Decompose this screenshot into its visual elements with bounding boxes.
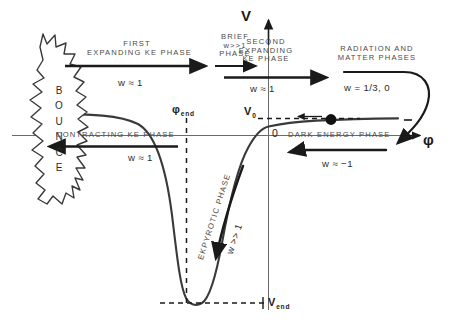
phi-end-subscript: end — [181, 110, 195, 117]
phi-end-symbol: φ — [172, 103, 181, 115]
phase-first-expanding-ke-caption: FIRST EXPANDING KE PHASE — [87, 40, 187, 57]
bounce-letter-o: O — [46, 98, 72, 113]
phase-dark-energy-caption: DARK ENERGY PHASE — [288, 131, 392, 140]
phase-second-expanding-ke-caption: SECOND EXPANDING KE PHASE — [232, 38, 300, 64]
bounce-letter-e: E — [46, 160, 72, 175]
caption-line: MATTER PHASES — [329, 54, 425, 63]
phase-contracting-ke-caption: CONTRACTING KE PHASE — [56, 131, 180, 140]
caption-line: CONTRACTING KE PHASE — [56, 131, 180, 140]
figure-canvas: B O U N C E FIRST EXPANDING KE PHASE w ≈… — [0, 0, 452, 323]
phase-second-expanding-ke-w: w ≈ 1 — [250, 84, 275, 95]
phi-axis-label: φ — [423, 132, 435, 149]
phase-first-expanding-ke-w: w ≈ 1 — [118, 78, 143, 89]
v-axis-label: V — [241, 8, 252, 25]
bounce-letter-c: C — [46, 145, 72, 160]
field-state-ball — [326, 114, 337, 125]
phase-radiation-matter-caption: RADIATION AND MATTER PHASES — [329, 45, 425, 62]
v0-label: V0 — [244, 105, 257, 120]
bounce-letter-b: B — [46, 83, 72, 98]
caption-line: KE PHASE — [232, 55, 300, 64]
arrow-dark-energy — [290, 150, 386, 152]
v0-subscript: 0 — [252, 112, 256, 119]
v-end-symbol: V — [268, 296, 276, 308]
v-end-label: Vend — [268, 296, 290, 311]
v0-symbol: V — [244, 105, 252, 117]
bounce-letter-u: U — [46, 114, 72, 129]
v-end-subscript: end — [276, 303, 290, 310]
phi-end-label: φend — [172, 103, 195, 118]
caption-line: EXPANDING KE PHASE — [87, 49, 187, 58]
origin-label: 0 — [272, 128, 279, 140]
potential-curve — [52, 114, 398, 304]
phase-radiation-matter-w: w = 1/3, 0 — [344, 83, 390, 94]
phase-contracting-ke-w: w ≈ 1 — [128, 153, 153, 164]
caption-line: DARK ENERGY PHASE — [288, 131, 392, 140]
v-end-guide-line — [160, 297, 264, 309]
phase-dark-energy-w: w ≈ −1 — [322, 159, 353, 170]
